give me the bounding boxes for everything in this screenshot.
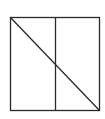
- square-diagram: [0, 0, 105, 119]
